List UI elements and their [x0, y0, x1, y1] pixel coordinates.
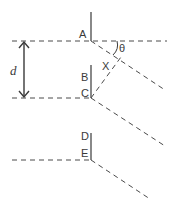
diffracted-ray-from-E [91, 160, 150, 199]
label-c: C [81, 87, 89, 99]
theta-angle-arc [113, 41, 118, 55]
label-x: X [102, 60, 110, 72]
label-b: B [81, 71, 88, 83]
diffraction-diagram: A B C D E X θ d [0, 0, 175, 203]
label-d-distance: d [10, 63, 17, 78]
label-a: A [79, 28, 87, 40]
diffracted-ray-from-C [91, 98, 165, 146]
label-e: E [81, 147, 88, 159]
label-theta: θ [119, 42, 125, 54]
label-d: D [81, 130, 89, 142]
